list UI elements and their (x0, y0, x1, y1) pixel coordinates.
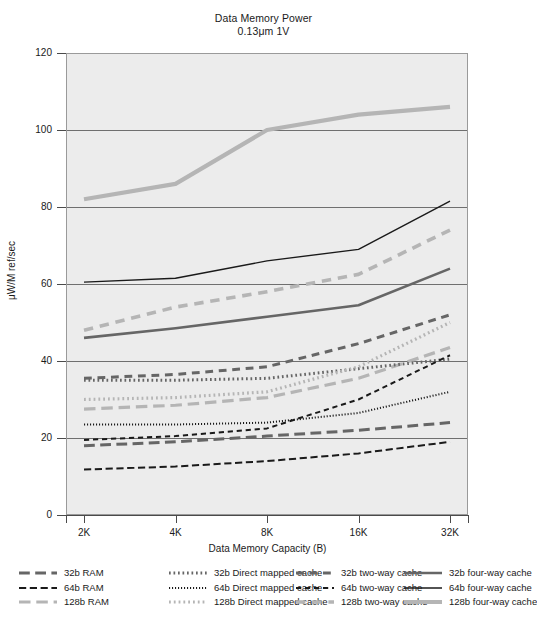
legend-item[interactable]: 128b RAM (18, 595, 109, 610)
chart-title-block: Data Memory Power 0.13μm 1V (0, 12, 527, 38)
x-tick-label: 8K (242, 527, 292, 538)
gridline (67, 361, 467, 362)
x-tick-mark (359, 515, 360, 523)
legend-line-swatch (18, 596, 58, 608)
y-tick-mark (57, 207, 66, 208)
y-tick-label: 60 (18, 279, 52, 289)
legend-label: 64b four-way cache (449, 582, 532, 594)
legend-column: 32b RAM64b RAM128b RAM (18, 566, 109, 610)
legend-label: 64b RAM (64, 582, 104, 594)
x-tick-label: 32K (425, 527, 475, 538)
legend-item[interactable]: 32b four-way cache (403, 566, 537, 581)
legend-column: 32b four-way cache64b four-way cache128b… (403, 566, 537, 610)
legend-item[interactable]: 128b four-way cache (403, 595, 537, 610)
x-tick-mark (450, 515, 451, 523)
x-tick-label: 2K (59, 527, 109, 538)
y-tick-mark (57, 130, 66, 131)
y-tick-mark (57, 53, 66, 54)
legend-label: 128b RAM (64, 596, 109, 608)
legend-item[interactable]: 64b RAM (18, 581, 109, 596)
chart-subtitle: 0.13μm 1V (0, 25, 527, 38)
chart-legend: 32b RAM64b RAM128b RAM32b Direct mapped … (18, 566, 518, 616)
y-tick-label: 120 (18, 48, 52, 58)
gridline (67, 284, 467, 285)
legend-line-swatch (403, 582, 443, 594)
y-tick-label: 0 (18, 510, 52, 520)
legend-label: 128b four-way cache (449, 596, 537, 608)
y-tick-label: 20 (18, 433, 52, 443)
y-tick-label: 40 (18, 356, 52, 366)
y-tick-label: 80 (18, 202, 52, 212)
plot-area (66, 53, 468, 515)
y-tick-mark (57, 361, 66, 362)
x-tick-label: 16K (334, 527, 384, 538)
legend-line-swatch (168, 596, 208, 608)
y-tick-mark (57, 284, 66, 285)
y-tick-mark (57, 515, 66, 516)
legend-line-swatch (18, 582, 58, 594)
x-tick-label: 4K (151, 527, 201, 538)
y-axis-title: μW/M ref/sec (6, 181, 17, 361)
legend-line-swatch (18, 567, 58, 579)
legend-line-swatch (295, 567, 335, 579)
x-tick-mark (84, 515, 85, 523)
legend-label: 32b RAM (64, 567, 104, 579)
x-axis-title: Data Memory Capacity (B) (66, 543, 469, 554)
x-tick-mark (468, 515, 469, 523)
legend-line-swatch (403, 596, 443, 608)
legend-item[interactable]: 64b four-way cache (403, 581, 537, 596)
legend-line-swatch (403, 567, 443, 579)
gridline (67, 130, 467, 131)
gridline (67, 438, 467, 439)
y-tick-mark (57, 438, 66, 439)
x-tick-mark (66, 515, 67, 523)
legend-line-swatch (295, 582, 335, 594)
chart-title: Data Memory Power (0, 12, 527, 25)
gridline (67, 207, 467, 208)
legend-line-swatch (295, 596, 335, 608)
y-tick-label: 100 (18, 125, 52, 135)
x-tick-mark (176, 515, 177, 523)
legend-line-swatch (168, 567, 208, 579)
legend-line-swatch (168, 582, 208, 594)
legend-item[interactable]: 32b RAM (18, 566, 109, 581)
legend-label: 32b four-way cache (449, 567, 532, 579)
x-tick-mark (267, 515, 268, 523)
